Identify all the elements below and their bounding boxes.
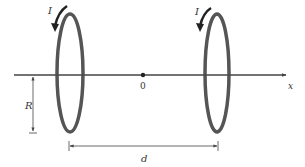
right-coil [205, 14, 229, 132]
separation-dimension [69, 141, 218, 151]
current-label-left: I [47, 5, 53, 16]
axis-label: x [288, 81, 293, 91]
current-label-right: I [194, 6, 200, 17]
helmholtz-coil-diagram: I I 0 x R d [0, 0, 305, 167]
origin-label: 0 [140, 81, 146, 91]
radius-label: R [24, 100, 33, 111]
left-coil [57, 14, 83, 132]
origin-point [141, 73, 145, 77]
separation-label: d [141, 153, 147, 164]
